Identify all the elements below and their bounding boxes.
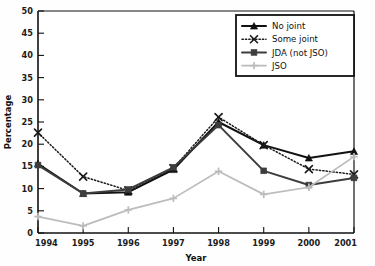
y-tick-label: 45	[22, 28, 34, 38]
chart-legend: No jointSome jointJDA (not JSO)JSO	[236, 15, 354, 76]
y-tick-label: 50	[22, 6, 34, 16]
x-tick-label: 1995	[72, 238, 95, 248]
x-tick-label: 1994	[35, 238, 58, 248]
y-tick-label: 15	[22, 161, 34, 171]
x-tick-label: 1998	[207, 238, 230, 248]
line-chart: 05101520253035404550 1994199519961997199…	[0, 0, 375, 266]
x-tick-label: 1999	[252, 238, 275, 248]
x-tick-label: 1996	[117, 238, 140, 248]
marker-square	[35, 162, 41, 168]
marker-square	[216, 122, 222, 128]
y-tick-label: 30	[22, 95, 34, 105]
y-tick-label: 20	[22, 139, 34, 149]
y-tick-label: 35	[22, 73, 34, 83]
y-tick-label: 40	[22, 50, 34, 60]
legend-label: JDA (not JSO)	[271, 48, 328, 58]
legend-label: JSO	[271, 61, 287, 71]
y-tick-label: 10	[22, 184, 34, 194]
y-tick-label: 25	[22, 117, 34, 127]
chart-figure: 05101520253035404550 1994199519961997199…	[0, 0, 375, 266]
marker-square	[351, 175, 357, 181]
marker-square	[171, 164, 177, 170]
marker-square	[261, 168, 267, 174]
x-tick-label: 2000	[297, 238, 320, 248]
y-axis-label: Percentage	[3, 94, 13, 149]
legend-label: No joint	[272, 21, 306, 31]
marker-square	[125, 187, 131, 193]
x-tick-label: 2001	[334, 238, 357, 248]
y-tick-label: 0	[27, 228, 33, 238]
x-tick-label: 1997	[162, 238, 185, 248]
marker-square	[80, 191, 86, 197]
y-tick-label: 5	[27, 206, 33, 216]
legend-label: Some joint	[272, 34, 319, 44]
x-axis-label: Year	[184, 253, 207, 263]
marker-square	[251, 50, 257, 56]
